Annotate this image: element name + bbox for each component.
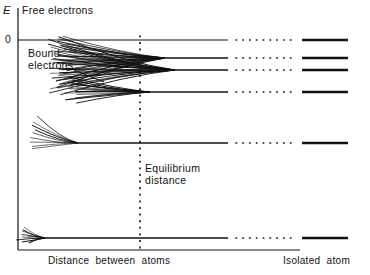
isolated-atom-label: Isolated atom <box>283 255 350 267</box>
level-band-middle <box>65 77 348 103</box>
level-level-lower <box>30 116 348 149</box>
zero-tick-label: 0 <box>5 33 11 45</box>
equilibrium-distance-label: Equilibrium distance <box>145 162 200 186</box>
free-electrons-label: Free electrons <box>22 4 93 16</box>
level-level-core <box>16 227 348 243</box>
energy-band-diagram <box>0 0 370 275</box>
x-axis-label: Distance between atoms <box>48 255 170 267</box>
y-axis-label: E <box>3 4 11 16</box>
band-line <box>33 122 78 143</box>
band-line <box>75 91 150 92</box>
bound-electrons-label: Bound electrons <box>28 47 73 71</box>
figure-canvas: E Free electrons 0 Bound electrons Equil… <box>0 0 370 275</box>
